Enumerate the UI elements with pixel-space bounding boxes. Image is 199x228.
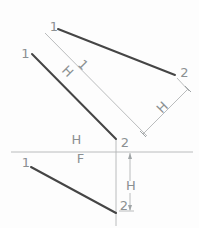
front-dimension-arrow-up [128, 153, 132, 159]
hf-fold-label-f: F [77, 151, 84, 166]
geometry-canvas: 121212HFHHH1 [0, 0, 199, 228]
aux-dimension-label-h: H [154, 99, 172, 117]
top-view-point2-label: 2 [121, 135, 129, 150]
front-dimension-arrow-down [128, 205, 132, 211]
auxiliary-fold-line [45, 33, 147, 136]
top-view-point1-label: 1 [21, 46, 29, 61]
aux-fold-label-1: 1 [75, 57, 91, 73]
descriptive-geometry-figure: 121212HFHHH1 [0, 0, 199, 228]
aux-view-point1-label: 1 [50, 19, 58, 34]
aux-fold-label-h: H [59, 63, 77, 81]
hf-fold-label-h: H [72, 132, 82, 147]
front-view-point1-label: 1 [22, 155, 30, 170]
aux-view-point2-label: 2 [180, 65, 188, 80]
front-view-point2-label: 2 [120, 198, 128, 213]
front-dimension-label-h: H [126, 178, 136, 193]
front-view-line-12 [31, 167, 116, 213]
